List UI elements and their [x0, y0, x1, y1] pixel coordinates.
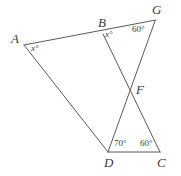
vertex-label-G: G	[152, 3, 161, 16]
segment-G-D	[108, 21, 155, 152]
angle-label-C: 60°	[140, 139, 153, 148]
angle-label-B: x°	[105, 30, 113, 39]
angle-label-D: 70°	[114, 139, 127, 148]
geometry-diagram: A B G F D C x° x° 60° 70° 60°	[0, 0, 181, 176]
diagram-canvas	[0, 0, 181, 176]
vertex-label-A: A	[11, 32, 19, 45]
vertex-label-B: B	[98, 16, 106, 29]
angle-label-A: x°	[31, 44, 39, 53]
vertex-label-D: D	[104, 156, 113, 169]
angle-label-G: 60°	[132, 25, 145, 34]
segment-A-D	[24, 45, 108, 152]
segment-B-C	[103, 34, 160, 152]
vertex-label-F: F	[136, 83, 144, 96]
vertex-label-C: C	[157, 156, 166, 169]
